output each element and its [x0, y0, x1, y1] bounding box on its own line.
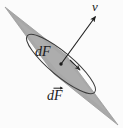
normal-vector-arrow — [61, 17, 96, 65]
area-element-label: dF — [35, 45, 51, 59]
figure-canvas: ν dF dF — [0, 0, 123, 128]
area-element-vector-d: d — [47, 88, 54, 103]
area-element-vector-label: dF — [47, 89, 63, 103]
normal-vector-label: ν — [92, 0, 98, 13]
area-element-vector-F: F — [54, 89, 63, 103]
surface-base-point — [59, 62, 62, 65]
area-element-vector-letter: F — [54, 88, 63, 103]
vector-diagram-svg — [0, 0, 123, 128]
